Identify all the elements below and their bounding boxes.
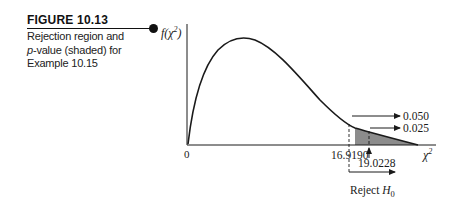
alpha-label: 0.050 [403,110,429,122]
origin-label: 0 [184,148,190,160]
chi-square-chart: f(χ2) 0 χ2 16.9190 19.0228 0.050 0.025 R… [0,0,467,207]
y-axis-label: f(χ2) [161,25,182,40]
reject-h0-label: Reject H0 [350,184,395,199]
observed-value-label: 19.0228 [358,157,396,169]
x-axis-label: χ2 [422,147,432,162]
density-curve [188,38,418,145]
pvalue-label: 0.025 [403,122,429,134]
